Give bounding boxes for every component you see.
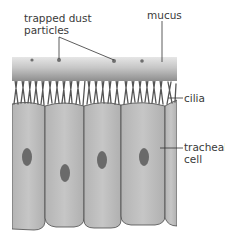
label-mucus: mucus	[147, 9, 182, 21]
label-dust-line2: particles	[24, 24, 92, 36]
label-tracheal-cell: tracheal cell	[184, 141, 225, 165]
label-cilia: cilia	[184, 92, 205, 104]
trachea-epithelium-diagram	[0, 0, 225, 242]
tracheal-cell-1	[12, 102, 45, 230]
mucus-layer	[12, 57, 177, 81]
label-mucus-text: mucus	[147, 9, 182, 21]
tracheal-cells	[12, 100, 177, 230]
tracheal-cell-5	[165, 100, 177, 226]
label-cilia-text: cilia	[184, 92, 205, 104]
label-dust-line1: trapped dust	[24, 12, 92, 24]
dust-particle-4	[140, 59, 144, 63]
label-cell-line2: cell	[184, 153, 225, 165]
cilia-layer	[14, 80, 176, 105]
dust-particle-1	[30, 58, 33, 61]
label-cell-line1: tracheal	[184, 141, 225, 153]
label-trapped-dust-particles: trapped dust particles	[24, 12, 92, 36]
nucleus-3	[97, 151, 107, 169]
dust-leader-2	[59, 37, 114, 60]
nucleus-4	[139, 148, 149, 166]
nucleus-2	[60, 164, 70, 182]
nucleus-1	[22, 148, 32, 166]
